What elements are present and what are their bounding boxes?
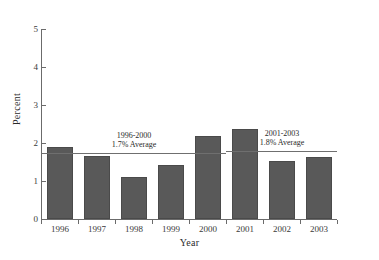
bar-1998	[121, 177, 147, 219]
x-tick-label-2001: 2001	[225, 224, 265, 234]
x-axis-title: Year	[0, 238, 379, 248]
y-tick-label: 0	[24, 215, 38, 224]
bar-2003	[306, 157, 332, 219]
bar-chart: Percent Year 012345 19961997199819992000…	[0, 0, 379, 260]
x-tick-label-2003: 2003	[299, 224, 339, 234]
x-tick-label-1996: 1996	[40, 224, 80, 234]
bar-2002	[269, 161, 295, 219]
y-tick-label: 5	[24, 25, 38, 34]
y-axis-line	[41, 29, 42, 220]
bar-2000	[195, 136, 221, 219]
x-tick-label-2000: 2000	[188, 224, 228, 234]
y-axis-title: Percent	[12, 74, 22, 144]
x-tick-label-1999: 1999	[151, 224, 191, 234]
average-line-avg-2001-2003	[226, 151, 337, 152]
y-tick-mark	[42, 181, 46, 182]
average-note-avg-2001-2003: 2001-20031.8% Average	[237, 129, 327, 147]
average-period-label: 1996-2000	[89, 131, 179, 140]
y-tick-mark	[42, 105, 46, 106]
average-value-label: 1.7% Average	[89, 140, 179, 149]
average-note-avg-1996-2000: 1996-20001.7% Average	[89, 131, 179, 149]
y-tick-mark	[42, 219, 46, 220]
x-tick-label-1997: 1997	[77, 224, 117, 234]
average-value-label: 1.8% Average	[237, 138, 327, 147]
bar-1997	[84, 156, 110, 219]
y-tick-mark	[42, 67, 46, 68]
x-tick-label-1998: 1998	[114, 224, 154, 234]
x-tick-label-2002: 2002	[262, 224, 302, 234]
y-tick-mark	[42, 29, 46, 30]
y-tick-mark	[42, 143, 46, 144]
bar-1999	[158, 165, 184, 219]
y-tick-label: 3	[24, 101, 38, 110]
average-period-label: 2001-2003	[237, 129, 327, 138]
average-line-avg-1996-2000	[41, 153, 226, 154]
y-tick-label: 4	[24, 63, 38, 72]
y-tick-label: 1	[24, 177, 38, 186]
bar-1996	[47, 147, 73, 219]
y-tick-label: 2	[24, 139, 38, 148]
